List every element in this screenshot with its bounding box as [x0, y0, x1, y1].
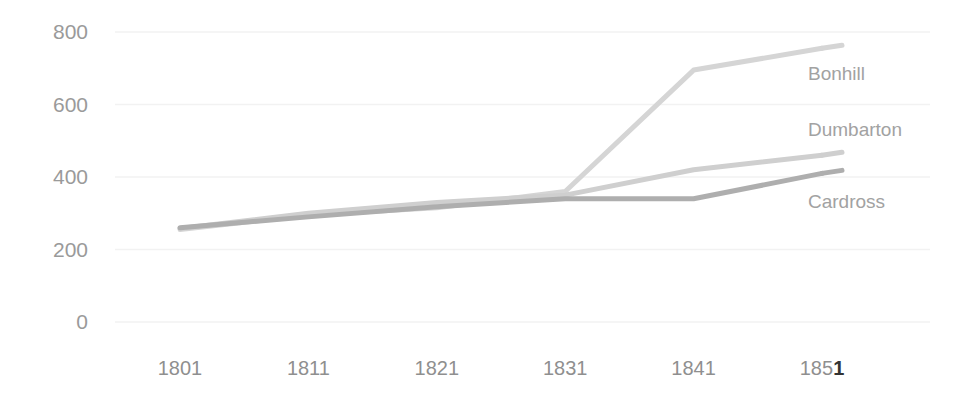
- plot-area: 8006004002000 180118111821183118411851 B…: [0, 0, 959, 408]
- x-tick-label-1851: 1851: [762, 358, 882, 378]
- series-label-cardross: Cardross: [808, 192, 885, 211]
- y-tick-label-800: 800: [18, 21, 88, 42]
- y-tick-label-0: 0: [18, 311, 88, 332]
- y-tick-label-200: 200: [18, 239, 88, 260]
- x-axis: 180118111821183118411851: [0, 348, 959, 388]
- x-tick-label-1811: 1811: [248, 358, 368, 378]
- series-label-dumbarton: Dumbarton: [808, 120, 902, 139]
- y-tick-label-600: 600: [18, 94, 88, 115]
- x-tick-label-1841: 1841: [634, 358, 754, 378]
- x-tick-label-1821: 1821: [377, 358, 497, 378]
- x-tick-label-1801: 1801: [120, 358, 240, 378]
- y-axis: 8006004002000: [18, 0, 88, 408]
- y-tick-label-400: 400: [18, 166, 88, 187]
- x-tick-label-1831: 1831: [505, 358, 625, 378]
- line-chart: 8006004002000 180118111821183118411851 B…: [0, 0, 959, 408]
- series-label-bonhill: Bonhill: [808, 64, 865, 83]
